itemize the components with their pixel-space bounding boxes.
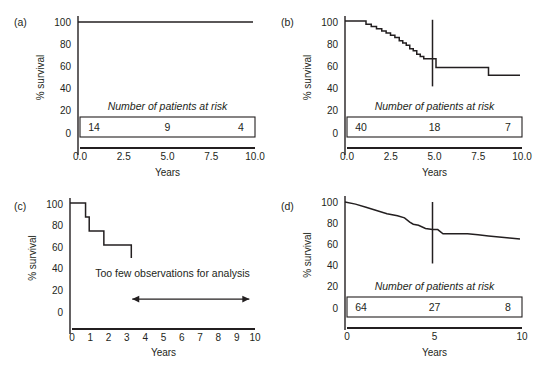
y-tick-label: 100: [321, 197, 338, 208]
y-tick-label: 100: [54, 17, 71, 28]
x-axis-title: Years: [155, 167, 180, 178]
x-tick-label: 1: [88, 332, 94, 343]
y-tick-label: 20: [60, 105, 72, 116]
y-tick-label: 0: [332, 128, 338, 139]
x-tick-label: 7.5: [471, 151, 485, 162]
panel-label: (a): [14, 16, 27, 28]
panel-label: (d): [281, 200, 294, 212]
panel-label: (c): [14, 200, 26, 212]
range-arrow: [132, 296, 249, 303]
risk-table-value: 27: [429, 301, 441, 313]
risk-table-value: 18: [429, 121, 441, 133]
y-tick-label: 0: [65, 128, 71, 139]
x-tick-label: 2: [106, 332, 112, 343]
y-tick-label: 60: [327, 61, 339, 72]
x-tick-label: 10: [249, 332, 261, 343]
x-tick-label: 5.0: [161, 151, 175, 162]
y-tick-label: 0: [57, 307, 63, 318]
y-tick-label: 40: [60, 83, 72, 94]
y-axis-title: % survival: [27, 235, 38, 281]
panel-d: (d)100806040200% survival0510YearsNumber…: [267, 190, 533, 360]
panel-c: (c)100806040200% survival012345678910Yea…: [0, 190, 267, 360]
x-tick-label: 2.5: [117, 151, 131, 162]
y-tick-label: 20: [52, 285, 64, 296]
x-tick-label: 0.0: [340, 151, 354, 162]
y-tick-label: 80: [52, 220, 64, 231]
y-tick-label: 60: [327, 239, 339, 250]
x-tick-label: 7.5: [204, 151, 218, 162]
x-tick-label: 0: [69, 332, 75, 343]
risk-table-title: Number of patients at risk: [375, 100, 495, 112]
survival-curve: [70, 203, 131, 258]
panel-label: (b): [281, 16, 294, 28]
risk-table-value: 8: [505, 301, 511, 313]
y-axis-title: % survival: [302, 232, 313, 278]
x-tick-label: 0.0: [73, 151, 87, 162]
y-tick-label: 40: [327, 83, 339, 94]
risk-table-value: 40: [355, 121, 367, 133]
x-tick-label: 10.0: [512, 151, 532, 162]
y-tick-label: 100: [46, 199, 63, 210]
y-tick-label: 40: [327, 260, 339, 271]
x-tick-label: 3: [124, 332, 130, 343]
y-tick-label: 40: [52, 263, 64, 274]
risk-table-value: 64: [355, 301, 367, 313]
x-tick-label: 4: [142, 332, 148, 343]
x-tick-label: 5: [432, 331, 438, 342]
y-tick-label: 20: [327, 281, 339, 292]
analysis-note: Too few observations for analysis: [95, 267, 250, 279]
y-axis-title: % survival: [302, 55, 313, 101]
y-tick-label: 100: [321, 17, 338, 28]
x-axis-title: Years: [422, 167, 447, 178]
risk-table-value: 9: [165, 121, 171, 133]
y-tick-label: 60: [52, 242, 64, 253]
y-tick-label: 0: [332, 303, 338, 314]
x-tick-label: 0: [344, 331, 350, 342]
x-axis-title: Years: [422, 347, 447, 358]
risk-table-value: 4: [238, 121, 244, 133]
risk-table-value: 14: [88, 121, 100, 133]
survival-curves-figure: (a)100806040200% survival0.02.55.07.510.…: [0, 0, 533, 379]
panel-b: (b)100806040200% survival0.02.55.07.510.…: [267, 0, 533, 190]
y-axis-title: % survival: [35, 55, 46, 101]
y-tick-label: 80: [327, 39, 339, 50]
x-tick-label: 8: [216, 332, 222, 343]
x-tick-label: 6: [179, 332, 185, 343]
risk-table-title: Number of patients at risk: [375, 280, 495, 292]
y-tick-label: 80: [327, 218, 339, 229]
risk-table-title: Number of patients at risk: [108, 100, 228, 112]
x-tick-label: 5.0: [428, 151, 442, 162]
x-tick-label: 7: [197, 332, 203, 343]
x-axis-title: Years: [151, 347, 176, 358]
x-tick-label: 2.5: [384, 151, 398, 162]
x-tick-label: 10.0: [245, 151, 265, 162]
y-tick-label: 80: [60, 39, 72, 50]
y-tick-label: 60: [60, 61, 72, 72]
x-tick-label: 9: [234, 332, 240, 343]
y-tick-label: 20: [327, 105, 339, 116]
panel-a: (a)100806040200% survival0.02.55.07.510.…: [0, 0, 267, 190]
risk-table-value: 7: [505, 121, 511, 133]
x-tick-label: 5: [161, 332, 167, 343]
x-tick-label: 10: [516, 331, 528, 342]
